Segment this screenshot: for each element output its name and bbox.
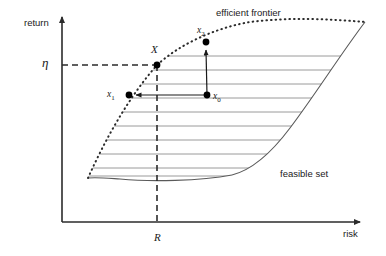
arrow-x0-to-x2 xyxy=(206,50,207,95)
point-label-x0: x0 xyxy=(213,92,221,104)
x-axis-tick-label-r: R xyxy=(154,232,161,243)
y-axis-tick-label-eta: η xyxy=(42,56,48,69)
point-label-x2-sub: 2 xyxy=(201,30,205,38)
point-x1 xyxy=(126,92,133,99)
point-label-x1-sub: 1 xyxy=(111,94,115,102)
point-x0 xyxy=(204,92,211,99)
feasible-set-hatching xyxy=(60,56,380,176)
x-axis-label: risk xyxy=(343,229,358,239)
point-x2 xyxy=(203,39,210,46)
efficient-frontier-figure: return risk η R efficient frontier feasi… xyxy=(0,0,386,256)
efficient-frontier-label: efficient frontier xyxy=(216,8,281,18)
point-label-x2: x2 xyxy=(197,26,205,38)
figure-canvas xyxy=(0,0,386,256)
point-label-X: X xyxy=(151,44,158,55)
feasible-set-right-boundary xyxy=(232,22,365,175)
feasible-set-label: feasible set xyxy=(280,169,328,179)
point-label-x0-sub: 0 xyxy=(217,96,221,104)
y-axis-label: return xyxy=(24,18,49,28)
point-label-x1: x1 xyxy=(107,90,115,102)
point-X xyxy=(154,62,161,69)
